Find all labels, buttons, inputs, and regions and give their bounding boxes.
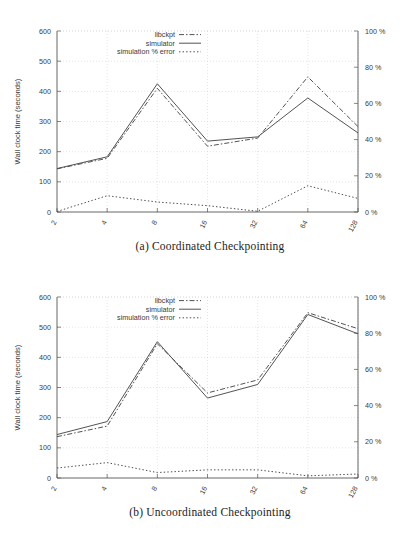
x-axis-tick-label: 2: [49, 219, 59, 227]
x-axis-tick-label: 64: [298, 219, 310, 230]
y-axis-title: Wall clock time (seconds): [13, 344, 22, 430]
series-line-libckpt: [57, 313, 358, 437]
series-line-libckpt: [57, 77, 358, 169]
x-axis-tick-label: 32: [248, 485, 260, 496]
y2-axis-tick-label: 80 %: [365, 329, 382, 338]
y2-axis-tick-label: 20 %: [365, 437, 382, 446]
chart-b-canvas: 01002003004005006000 %20 %40 %60 %80 %10…: [0, 266, 420, 506]
y2-axis-tick-label: 40 %: [365, 401, 382, 410]
x-axis-tick-label: 2: [49, 485, 59, 493]
legend-label-simulation-error: simulation % error: [117, 47, 176, 56]
y2-axis-tick-label: 0 %: [365, 474, 378, 483]
y2-axis-tick-label: 60 %: [365, 99, 382, 108]
y2-axis-tick-label: 80 %: [365, 63, 382, 72]
x-axis-tick-label: 4: [99, 219, 109, 227]
y2-axis-tick-label: 100 %: [365, 293, 386, 302]
figure-b-caption: (b) Uncoordinated Checkpointing: [0, 506, 420, 518]
legend-label-simulation-error: simulation % error: [117, 313, 176, 322]
y-axis-tick-label: 600: [39, 293, 51, 302]
y-axis-tick-label: 400: [39, 87, 51, 96]
y-axis-tick-label: 100: [39, 177, 51, 186]
y2-axis-tick-label: 20 %: [365, 171, 382, 180]
y-axis-tick-label: 0: [47, 208, 51, 217]
figure-coordinated-checkpointing: 01002003004005006000 %20 %40 %60 %80 %10…: [0, 0, 420, 266]
x-axis-tick-label: 32: [248, 219, 260, 230]
y2-axis-tick-label: 60 %: [365, 365, 382, 374]
y-axis-tick-label: 600: [39, 27, 51, 36]
y-axis-tick-label: 300: [39, 117, 51, 126]
series-line-simulator: [57, 84, 358, 169]
y-axis-tick-label: 200: [39, 147, 51, 156]
figure-a-caption: (a) Coordinated Checkpointing: [0, 240, 420, 252]
x-axis-tick-label: 16: [198, 219, 210, 230]
y2-axis-tick-label: 40 %: [365, 135, 382, 144]
y-axis-tick-label: 200: [39, 413, 51, 422]
x-axis-tick-label: 8: [149, 219, 159, 227]
x-axis-tick-label: 4: [99, 485, 109, 493]
plot-a: 01002003004005006000 %20 %40 %60 %80 %10…: [0, 0, 420, 240]
series-line-simulation-error: [57, 463, 358, 476]
figure-uncoordinated-checkpointing: 01002003004005006000 %20 %40 %60 %80 %10…: [0, 266, 420, 533]
y-axis-tick-label: 0: [47, 474, 51, 483]
y-axis-tick-label: 100: [39, 443, 51, 452]
y2-axis-tick-label: 100 %: [365, 27, 386, 36]
series-line-simulation-error: [57, 186, 358, 212]
y-axis-tick-label: 500: [39, 323, 51, 332]
series-line-simulator: [57, 315, 358, 435]
x-axis-tick-label: 16: [198, 485, 210, 496]
y-axis-tick-label: 400: [39, 353, 51, 362]
plot-b: 01002003004005006000 %20 %40 %60 %80 %10…: [0, 266, 420, 506]
y-axis-tick-label: 500: [39, 57, 51, 66]
x-axis-tick-label: 128: [346, 485, 360, 500]
y2-axis-tick-label: 0 %: [365, 208, 378, 217]
x-axis-tick-label: 8: [149, 485, 159, 493]
chart-a-canvas: 01002003004005006000 %20 %40 %60 %80 %10…: [0, 0, 420, 240]
x-axis-tick-label: 128: [346, 219, 360, 234]
y-axis-tick-label: 300: [39, 383, 51, 392]
y-axis-title: Wall clock time (seconds): [13, 78, 22, 164]
x-axis-tick-label: 64: [298, 485, 310, 496]
